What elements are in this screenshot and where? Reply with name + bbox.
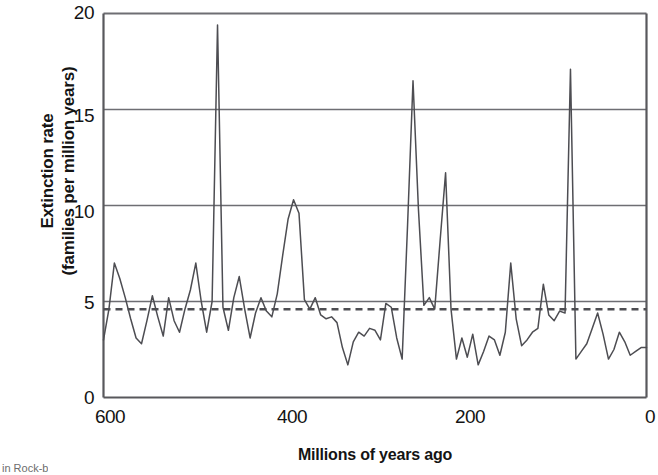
gridlines bbox=[104, 14, 647, 302]
extinction-rate-line bbox=[104, 25, 647, 365]
extinction-rate-figure: Extinction rate (families per million ye… bbox=[0, 0, 658, 475]
plot-area bbox=[0, 0, 658, 475]
caption-fragment: in Rock-b bbox=[2, 462, 48, 473]
